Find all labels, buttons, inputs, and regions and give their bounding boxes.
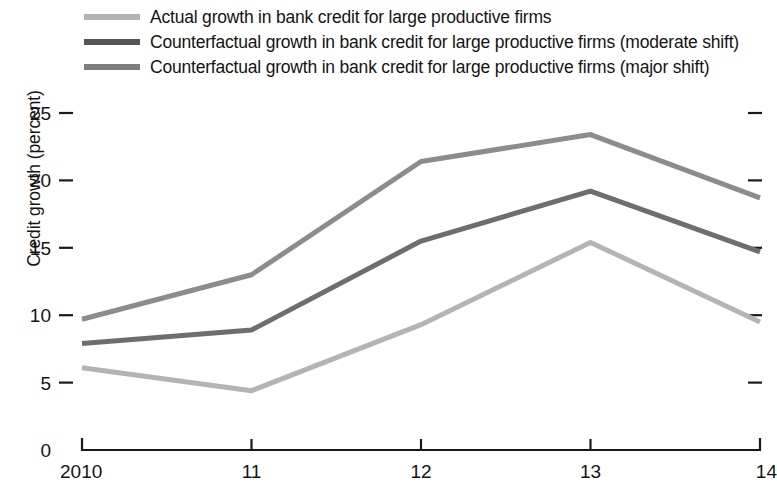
chart-svg: 0510152025 201011121314 <box>0 0 777 490</box>
series-line-actual <box>82 242 760 390</box>
x-tick-label-13: 13 <box>580 461 601 482</box>
y-tick-label-0: 0 <box>40 440 51 461</box>
y-tick-label-5: 5 <box>40 373 51 394</box>
series-line-major-shift <box>82 135 760 320</box>
x-axis: 201011121314 <box>60 439 777 482</box>
plot-area: 0510152025 201011121314 Credit growth (p… <box>0 0 777 490</box>
series-lines <box>82 135 760 391</box>
x-tick-label-2010: 2010 <box>60 461 102 482</box>
chart-figure: Actual growth in bank credit for large p… <box>0 0 777 490</box>
x-tick-label-11: 11 <box>242 461 262 482</box>
x-tick-label-14: 14 <box>756 461 777 482</box>
series-line-moderate-shift <box>82 191 760 343</box>
y-axis-title: Credit growth (percent) <box>24 49 45 309</box>
x-tick-label-12: 12 <box>410 461 431 482</box>
